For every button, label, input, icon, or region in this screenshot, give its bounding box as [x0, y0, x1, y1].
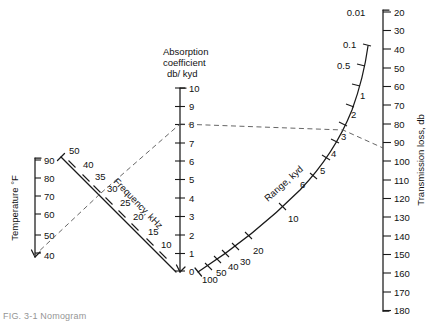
- range-label-3: 3: [341, 131, 346, 142]
- absorption-label-2: 2: [189, 230, 194, 241]
- nomogram-figure: 90 80 70 60 50 40 Temperature °F: [0, 0, 430, 324]
- construction-line: [34, 124, 383, 256]
- range-tick-labels: 100 50 40 30 20 10 6 5 4 3 2 1 0.5 0.1 0…: [202, 7, 365, 285]
- frequency-tick-15: [147, 239, 154, 246]
- range-label-40: 40: [228, 261, 239, 272]
- nomogram-canvas: 90 80 70 60 50 40 Temperature °F: [0, 0, 430, 324]
- transmission-label-30: 30: [394, 25, 405, 36]
- range-tick-0.1: [363, 44, 371, 46]
- temperature-label-50: 50: [44, 230, 55, 241]
- construction-segment-absorption-range-transmission: [180, 124, 383, 148]
- absorption-axis-title: Absorption coefficient db/ kyd: [163, 46, 208, 79]
- range-label-50: 50: [216, 267, 227, 278]
- construction-segment-temperature-frequency: [34, 193, 101, 256]
- transmission-label-110: 110: [394, 175, 409, 186]
- range-label-0.1: 0.1: [343, 39, 356, 50]
- range-label-4: 4: [331, 148, 336, 159]
- absorption-label-9: 9: [189, 101, 194, 112]
- range-label-0.01: 0.01: [347, 7, 366, 18]
- range-tick-1: [352, 84, 360, 86]
- absorption-label-1: 1: [189, 248, 194, 259]
- temperature-label-80: 80: [44, 173, 55, 184]
- temperature-ticks: [35, 160, 41, 253]
- frequency-tick-20: [132, 224, 139, 231]
- absorption-label-3: 3: [189, 211, 194, 222]
- temperature-label-90: 90: [44, 155, 55, 166]
- frequency-tick-labels: 50 40 35 30 25 20 15 10: [69, 145, 172, 250]
- range-tick-2: [346, 104, 354, 107]
- range-label-1: 1: [360, 90, 365, 101]
- absorption-label-7: 7: [189, 138, 194, 149]
- range-label-6: 6: [300, 179, 305, 190]
- range-tick-0.5: [357, 64, 365, 66]
- temperature-tick-labels: 90 80 70 60 50 40: [44, 155, 55, 261]
- absorption-tick-labels: 10 9 8 7 6 5 4 3 2 1 0: [189, 83, 200, 278]
- range-curve-line: [198, 46, 368, 272]
- transmission-label-130: 130: [394, 212, 410, 223]
- frequency-scale: 50 40 35 30 25 20 15 10 Frequency, kHz: [58, 145, 177, 272]
- transmission-label-150: 150: [394, 249, 410, 260]
- temperature-label-70: 70: [44, 191, 55, 202]
- range-label-20: 20: [253, 245, 264, 256]
- frequency-tick-30: [106, 198, 113, 205]
- temperature-label-40: 40: [44, 250, 55, 261]
- frequency-label-10: 10: [161, 239, 172, 250]
- range-label-2: 2: [351, 109, 356, 120]
- transmission-label-70: 70: [394, 100, 405, 111]
- transmission-tick-labels: 20 30 40 50 60 70 80 90 100 110 120 130 …: [394, 7, 410, 317]
- transmission-label-180: 180: [394, 305, 410, 316]
- temperature-scale: 90 80 70 60 50 40 Temperature °F: [9, 155, 55, 261]
- absorption-label-5: 5: [189, 174, 194, 185]
- transmission-label-40: 40: [394, 44, 405, 55]
- absorption-axis-title-line3: db/ kyd: [167, 68, 198, 79]
- range-axis-title: Range, kyd: [262, 163, 305, 203]
- transmission-axis-title: Transmission loss, db: [415, 114, 426, 206]
- transmission-ticks: [383, 12, 391, 311]
- range-scale: 100 50 40 30 20 10 6 5 4 3 2 1 0.5 0.1 0…: [195, 7, 371, 285]
- range-curve-start-cap: [195, 268, 202, 276]
- frequency-tick-10: [160, 252, 167, 259]
- absorption-label-10: 10: [189, 83, 200, 94]
- frequency-tick-50: [69, 161, 76, 168]
- frequency-label-35: 35: [95, 171, 106, 182]
- absorption-axis-title-line2: coefficient: [163, 57, 206, 68]
- figure-caption: FIG. 3-1 Nomogram: [3, 311, 243, 324]
- range-label-5: 5: [320, 165, 325, 176]
- frequency-tick-40: [83, 175, 90, 182]
- range-label-30: 30: [240, 256, 251, 267]
- range-ticks: [205, 44, 371, 270]
- frequency-tick-25: [119, 211, 126, 218]
- absorption-label-6: 6: [189, 156, 194, 167]
- transmission-label-170: 170: [394, 287, 410, 298]
- range-label-0.5: 0.5: [337, 60, 350, 71]
- absorption-label-0: 0: [189, 266, 194, 277]
- transmission-label-120: 120: [394, 193, 410, 204]
- transmission-label-160: 160: [394, 268, 410, 279]
- frequency-tick-35: [94, 186, 101, 193]
- transmission-label-60: 60: [394, 81, 405, 92]
- transmission-label-80: 80: [394, 119, 405, 130]
- range-label-10: 10: [288, 213, 299, 224]
- frequency-label-40: 40: [83, 159, 94, 170]
- transmission-label-140: 140: [394, 231, 410, 242]
- temperature-axis-title: Temperature °F: [9, 175, 20, 241]
- absorption-label-4: 4: [189, 193, 194, 204]
- transmission-label-90: 90: [394, 137, 405, 148]
- transmission-label-50: 50: [394, 63, 405, 74]
- transmission-loss-scale: 20 30 40 50 60 70 80 90 100 110 120 130 …: [383, 7, 426, 317]
- transmission-label-100: 100: [394, 156, 410, 167]
- transmission-label-20: 20: [394, 7, 405, 18]
- temperature-label-60: 60: [44, 209, 55, 220]
- absorption-axis-title-line1: Absorption: [163, 46, 208, 57]
- frequency-label-50: 50: [69, 145, 80, 156]
